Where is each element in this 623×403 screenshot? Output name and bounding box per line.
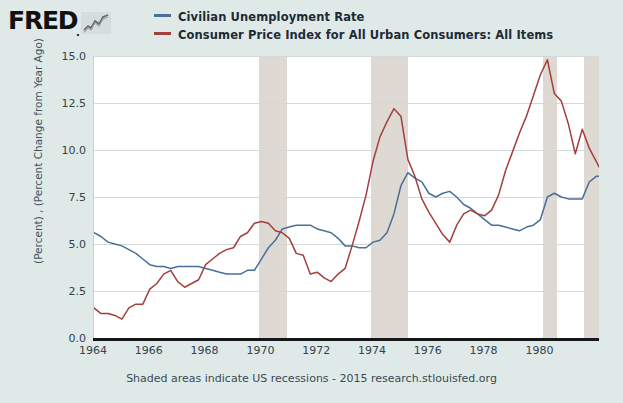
legend-item-unemployment[interactable]: Civilian Unemployment Rate (154, 8, 553, 24)
x-tick-label: 1968 (175, 344, 235, 357)
x-axis-line (93, 338, 599, 341)
x-axis-ticks: 196419661968197019721974197619781980 (0, 344, 623, 362)
plot-area (93, 56, 599, 338)
x-tick-label: 1978 (454, 344, 514, 357)
series-line (94, 173, 599, 275)
x-tick-label: 1972 (286, 344, 346, 357)
x-tick-label: 1964 (63, 344, 123, 357)
legend-item-cpi[interactable]: Consumer Price Index for All Urban Consu… (154, 26, 553, 42)
y-axis-ticks: 0.02.55.07.510.012.515.0 (36, 0, 86, 403)
x-tick-label: 1970 (230, 344, 290, 357)
legend-swatch-unemployment (154, 14, 171, 17)
legend-label-unemployment: Civilian Unemployment Rate (178, 9, 365, 25)
y-tick-label: 7.5 (40, 191, 86, 204)
legend-swatch-cpi (154, 32, 171, 35)
legend-label-cpi: Consumer Price Index for All Urban Consu… (178, 27, 553, 43)
chart-header: FRED . Civilian Unemployment Rate Consum… (0, 0, 623, 44)
series-line (94, 60, 599, 319)
x-tick-label: 1976 (398, 344, 458, 357)
y-tick-label: 0.0 (40, 332, 86, 345)
series-canvas (94, 56, 599, 338)
y-tick-label: 2.5 (40, 285, 86, 298)
y-tick-label: 5.0 (40, 238, 86, 251)
y-tick-label: 10.0 (40, 144, 86, 157)
footer-note: Shaded areas indicate US recessions - 20… (0, 372, 623, 385)
x-tick-label: 1974 (342, 344, 402, 357)
legend: Civilian Unemployment Rate Consumer Pric… (154, 8, 553, 44)
x-tick-label: 1980 (509, 344, 569, 357)
y-tick-label: 15.0 (40, 50, 86, 63)
x-tick-label: 1966 (119, 344, 179, 357)
fred-chart-figure: FRED . Civilian Unemployment Rate Consum… (0, 0, 623, 403)
y-tick-label: 12.5 (40, 97, 86, 110)
